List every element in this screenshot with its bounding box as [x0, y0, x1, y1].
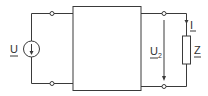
- output-voltage-subscript: 2: [158, 52, 162, 59]
- output-voltage-label: U: [150, 45, 158, 57]
- output-terminal-bottom: [162, 85, 166, 89]
- current-label: I: [190, 19, 193, 31]
- input-terminal-bottom: [50, 82, 54, 86]
- source-label: U: [10, 43, 18, 55]
- circuit-diagram: U I Z U 2: [0, 0, 208, 96]
- output-terminal-top: [162, 12, 166, 16]
- source-branch: [24, 14, 51, 84]
- voltage-arrow-icon: [162, 76, 166, 81]
- impedance-icon: [183, 36, 191, 64]
- two-port-block: [73, 7, 141, 91]
- input-terminal-top: [50, 12, 54, 16]
- load-label: Z: [194, 44, 201, 56]
- current-arrow-icon: [185, 20, 189, 24]
